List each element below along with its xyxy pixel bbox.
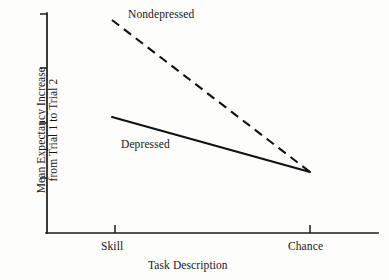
- chart-figure: Nondepressed Depressed Skill Chance Task…: [0, 0, 389, 280]
- series-label-depressed: Depressed: [121, 138, 170, 150]
- x-axis-tick-label-skill: Skill: [101, 240, 123, 252]
- x-axis-title: Task Description: [148, 259, 228, 271]
- y-axis-title-line-2: from Trial 1 to Trial 2: [47, 40, 59, 220]
- series-label-nondepressed: Nondepressed: [128, 8, 194, 20]
- y-axis-title-line-1: Mean Expectancy Increase: [35, 40, 47, 220]
- x-axis-tick-label-chance: Chance: [288, 240, 323, 252]
- y-axis-title: Mean Expectancy Increase from Trial 1 to…: [35, 40, 59, 220]
